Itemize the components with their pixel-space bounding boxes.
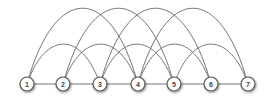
node-label: 1: [25, 81, 29, 88]
node-3: 3: [93, 77, 107, 91]
tall-arc-1-4: [27, 8, 138, 84]
tall-arc-3-6: [100, 8, 211, 84]
node-7: 7: [241, 77, 255, 91]
node-label: 3: [98, 81, 102, 88]
node-label: 6: [209, 81, 213, 88]
tall-arc-4-7: [138, 8, 248, 84]
arc-diagram: 1234567: [0, 0, 274, 103]
node-label: 2: [61, 81, 65, 88]
node-label: 5: [172, 81, 176, 88]
node-2: 2: [56, 77, 70, 91]
edges-group: [27, 8, 248, 84]
node-6: 6: [204, 77, 218, 91]
node-5: 5: [167, 77, 181, 91]
tall-arc-2-5: [63, 8, 174, 84]
node-4: 4: [131, 77, 145, 91]
node-label: 7: [246, 81, 250, 88]
node-1: 1: [20, 77, 34, 91]
node-label: 4: [136, 81, 140, 88]
